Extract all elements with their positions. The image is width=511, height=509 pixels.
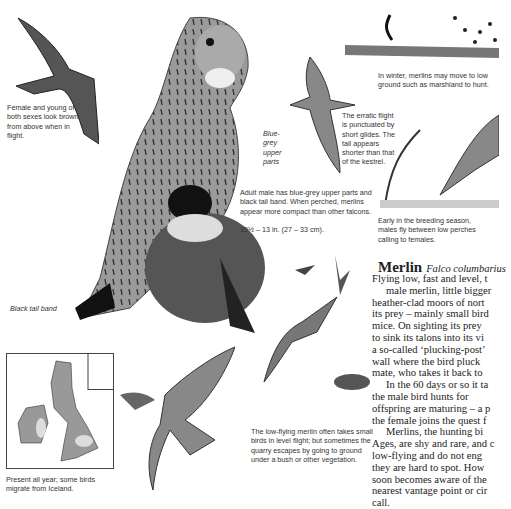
caption-adult-male: Adult male has blue-grey upper parts and…: [240, 188, 375, 216]
caption-female-young: Female and young of both sexes look brow…: [7, 103, 79, 140]
distribution-map: [6, 353, 114, 469]
text-line: nearest vantage point or cir: [372, 485, 511, 497]
caption-winter: In winter, merlins may move to low groun…: [378, 71, 503, 90]
text-line: soon becomes aware of the: [372, 474, 511, 486]
text-line: to sink its talons into its vi: [372, 332, 511, 344]
caption-erratic-flight: The erratic flight is punctuated by shor…: [342, 111, 398, 167]
text-line: wall where the bird pluck: [372, 356, 511, 368]
caption-size: 10½ – 13 in. (27 – 33 cm).: [240, 225, 370, 234]
text-line: mice. On sighting its prey: [372, 320, 511, 332]
text-line: male merlin, little bigger: [372, 285, 511, 297]
merlin-catching-prey-illustration: [115, 345, 235, 490]
text-line: call.: [372, 497, 511, 509]
text-line: In the 60 days or so it ta: [372, 379, 511, 391]
perched-merlin-illustration: [70, 8, 270, 338]
text-line: Merlins, the hunting bi: [372, 426, 511, 438]
low-flying-merlin-illustration: [262, 292, 372, 390]
text-line: the male bird hunts for: [372, 391, 511, 403]
caption-low-flying: The low-flying merlin often takes small …: [251, 427, 373, 464]
paragraph-3: Merlins, the hunting bi Ages, are shy an…: [372, 426, 511, 509]
text-line: the female joins the quest f: [372, 415, 511, 427]
caption-blue-grey-upper-parts: Blue-grey upper parts: [263, 129, 289, 166]
winter-marsh-scene-illustration: [340, 10, 499, 60]
caption-black-tail-band: Black tail band: [10, 304, 90, 313]
text-line: a so-called ‘plucking-post’: [372, 344, 511, 356]
caption-map: Present all year; some birds migrate fro…: [6, 475, 116, 494]
text-line: offspring are maturing – a p: [372, 403, 511, 415]
paragraph-2: In the 60 days or so it ta the male bird…: [372, 379, 511, 426]
article-body: Flying low, fast and level, t male merli…: [372, 273, 511, 509]
text-line: its prey – mainly small bird: [372, 308, 511, 320]
text-line: heather-clad moors of nort: [372, 297, 511, 309]
text-line: Ages, are shy and rare, and c: [372, 438, 511, 450]
caption-breeding-season: Early in the breeding season, males fly …: [378, 216, 490, 244]
text-line: low-flying and do not eng: [372, 450, 511, 462]
text-line: Flying low, fast and level, t: [372, 273, 511, 285]
text-line: they are hard to spot. How: [372, 462, 511, 474]
text-line: mate, who takes it back to: [372, 367, 511, 379]
paragraph-1: Flying low, fast and level, t male merli…: [372, 273, 511, 379]
